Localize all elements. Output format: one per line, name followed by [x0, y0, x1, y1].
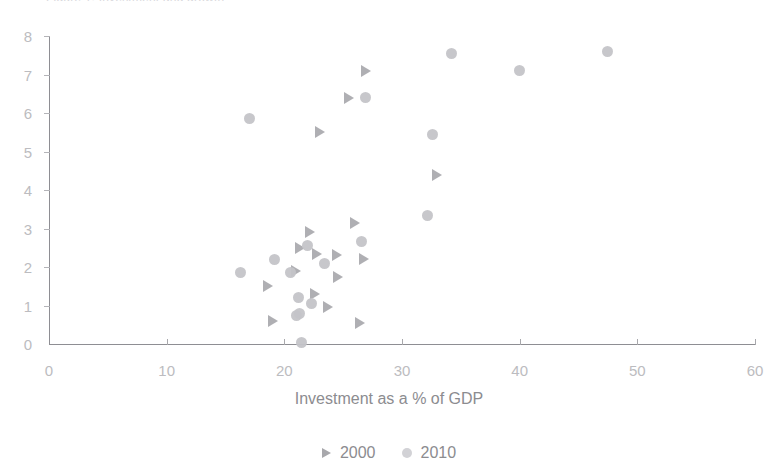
x-axis-tick-label: 0 [29, 362, 69, 379]
x-axis-title: Investment as a % of GDP [0, 390, 778, 408]
legend-label-2010: 2010 [421, 444, 457, 462]
legend-item-2010[interactable]: 2010 [402, 444, 457, 462]
plot-area [49, 36, 756, 345]
x-axis-tick-mark [402, 339, 403, 345]
legend-label-2000: 2000 [340, 444, 376, 462]
y-axis-tick-label: 5 [16, 143, 40, 160]
x-axis-tick-label: 10 [147, 362, 187, 379]
x-axis-tick-label: 40 [500, 362, 540, 379]
x-axis-tick-mark [520, 339, 521, 345]
y-axis-tick-mark [44, 229, 50, 230]
y-axis-tick-label: 8 [16, 28, 40, 45]
x-axis-tick-mark [284, 339, 285, 345]
y-axis-tick-mark [44, 190, 50, 191]
chart-legend: 2000 2010 [0, 444, 778, 462]
y-axis-tick-label: 6 [16, 105, 40, 122]
x-axis-tick-label: 60 [735, 362, 775, 379]
y-axis-tick-label: 0 [16, 336, 40, 353]
y-axis-tick-mark [44, 267, 50, 268]
x-axis-tick-label: 30 [382, 362, 422, 379]
x-axis-tick-mark [755, 339, 756, 345]
y-axis-tick-label: 7 [16, 66, 40, 83]
scatter-chart: Figure 1: Investment and growth 01234567… [0, 0, 778, 476]
circle-marker-icon [402, 448, 412, 458]
y-axis-tick-mark [44, 152, 50, 153]
y-axis-tick-label: 1 [16, 297, 40, 314]
x-axis-tick-mark [167, 339, 168, 345]
x-axis-tick-mark [637, 339, 638, 345]
y-axis-tick-label: 3 [16, 220, 40, 237]
y-axis-tick-label: 2 [16, 259, 40, 276]
y-axis-tick-mark [44, 36, 50, 37]
y-axis-tick-mark [44, 113, 50, 114]
y-axis-tick-mark [44, 75, 50, 76]
chart-title: Figure 1: Investment and growth [46, 0, 224, 1]
y-axis-tick-mark [44, 306, 50, 307]
x-axis-tick-label: 50 [617, 362, 657, 379]
x-axis-tick-label: 20 [264, 362, 304, 379]
legend-item-2000[interactable]: 2000 [322, 444, 376, 462]
y-axis-tick-label: 4 [16, 182, 40, 199]
triangle-marker-icon [322, 448, 331, 458]
